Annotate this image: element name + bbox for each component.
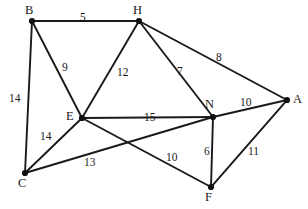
node-label-f: F	[205, 191, 212, 204]
node-label-h: H	[133, 4, 142, 17]
graph-edge-h-a	[139, 21, 287, 100]
node-label-a: A	[293, 93, 302, 106]
node-label-e: E	[66, 110, 74, 123]
node-label-b: B	[25, 4, 33, 17]
edge-weight-h-a: 8	[216, 52, 222, 64]
graph-node-n[interactable]	[210, 114, 216, 120]
graph-edge-h-e	[82, 21, 139, 118]
edge-weight-h-n: 7	[177, 66, 183, 78]
graph-edge-b-c	[25, 21, 32, 173]
edge-weight-e-f: 10	[166, 152, 178, 164]
graph-node-h[interactable]	[136, 18, 142, 24]
graph-edge-n-f	[211, 117, 213, 187]
edge-weight-n-a: 10	[240, 97, 252, 109]
graph-svg	[0, 0, 308, 209]
graph-edge-b-e	[32, 21, 82, 118]
node-label-n: N	[205, 98, 214, 111]
edge-weight-e-n: 15	[144, 112, 156, 124]
edge-weight-b-e: 9	[62, 62, 68, 74]
graph-diagram-canvas: 591412781015141013611 BHAENCF	[0, 0, 308, 209]
edge-weight-c-n: 13	[84, 157, 96, 169]
edge-weight-n-f: 6	[204, 146, 210, 158]
edge-weight-b-c: 14	[9, 93, 21, 105]
graph-edge-f-a	[211, 100, 287, 187]
edge-weight-e-c: 14	[40, 131, 52, 143]
edge-weight-h-e: 12	[117, 67, 129, 79]
graph-node-a[interactable]	[284, 97, 290, 103]
edge-weight-b-h: 5	[80, 12, 86, 24]
graph-edge-e-f	[82, 118, 211, 187]
graph-node-b[interactable]	[29, 18, 35, 24]
node-label-c: C	[18, 177, 26, 190]
edge-weight-f-a: 11	[248, 146, 259, 158]
graph-node-e[interactable]	[79, 115, 85, 121]
graph-edge-h-n	[139, 21, 213, 117]
